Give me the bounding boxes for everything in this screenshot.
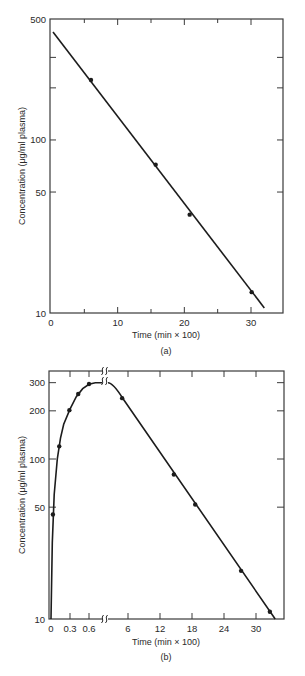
x-tick-label: 12 [155, 623, 166, 634]
y-tick-label: 100 [30, 134, 46, 145]
chart-a: 1050100500 0102030 Time (min × 100) Conc… [17, 14, 283, 357]
fit-curve-absorption [51, 383, 102, 619]
data-point [239, 569, 243, 573]
fit-curve-elimination [108, 383, 275, 619]
data-point [89, 78, 93, 82]
data-point [172, 472, 176, 476]
data-point [187, 212, 191, 216]
data-point [268, 610, 272, 614]
chart-a-series [53, 32, 264, 308]
data-point [76, 392, 80, 396]
data-point [153, 162, 157, 166]
y-tick-label: 10 [35, 308, 46, 319]
chart-a-ticks [50, 19, 283, 313]
x-tick-label: 18 [187, 623, 198, 634]
fit-line [53, 32, 264, 308]
x-tick-label: 0.6 [82, 623, 95, 634]
figure: 1050100500 0102030 Time (min × 100) Conc… [0, 0, 305, 676]
chart-a-y-tick-labels: 1050100500 [30, 14, 46, 319]
chart-b-x-tick-labels: 00.30.6612182430 [48, 623, 261, 634]
data-point [120, 396, 124, 400]
y-tick-label: 100 [29, 454, 45, 465]
y-tick-label: 200 [29, 405, 45, 416]
chart-b: 1050100200300 00.30.6612182430 Time (min… [17, 367, 284, 662]
chart-b-y-axis-label: Concentration (μg/ml plasma) [17, 436, 27, 554]
data-point [57, 444, 61, 448]
data-point [87, 382, 91, 386]
chart-a-x-axis-label: Time (min × 100) [132, 330, 200, 340]
data-point [193, 502, 197, 506]
chart-a-x-tick-labels: 0102030 [48, 317, 256, 328]
y-tick-label: 50 [35, 187, 46, 198]
chart-b-x-axis-label: Time (min × 100) [132, 637, 200, 647]
x-tick-label: 0.3 [63, 623, 76, 634]
x-tick-label: 0 [48, 317, 53, 328]
axis-break-icon [102, 367, 109, 623]
x-tick-label: 30 [246, 317, 257, 328]
chart-b-y-tick-labels: 1050100200300 [29, 377, 45, 624]
x-tick-label: 30 [251, 623, 262, 634]
x-tick-label: 10 [112, 317, 123, 328]
chart-a-y-axis-label: Concentration (μg/ml plasma) [17, 107, 27, 225]
x-tick-label: 6 [125, 623, 130, 634]
data-point [249, 290, 253, 294]
x-tick-label: 0 [48, 623, 53, 634]
data-point [51, 512, 55, 516]
x-tick-label: 20 [179, 317, 190, 328]
y-tick-label: 10 [34, 614, 45, 625]
y-tick-label: 300 [29, 377, 45, 388]
chart-a-caption: (a) [161, 346, 172, 356]
data-point [67, 408, 71, 412]
x-tick-label: 24 [219, 623, 230, 634]
chart-a-plot-frame [50, 19, 283, 313]
y-tick-label: 50 [34, 502, 45, 513]
chart-b-caption: (b) [161, 652, 172, 662]
y-tick-label: 500 [30, 14, 46, 25]
chart-b-series [51, 382, 276, 619]
